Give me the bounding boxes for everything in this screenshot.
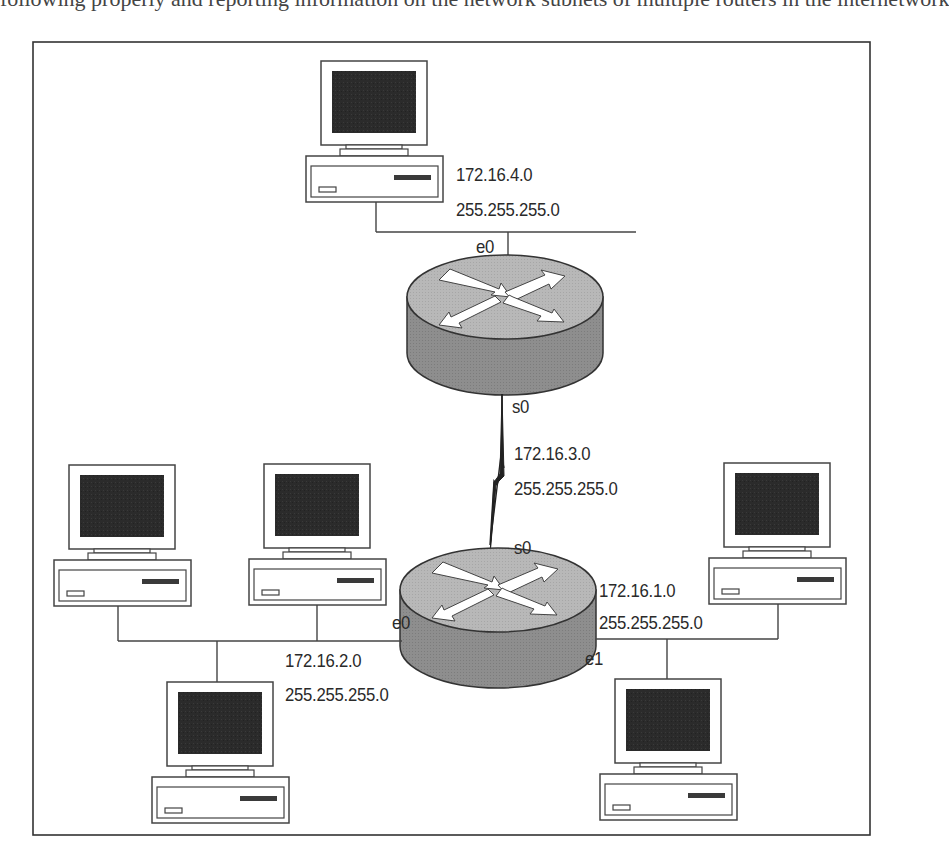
bottom-router-s0-label: s0 — [514, 537, 531, 559]
pc-left-2 — [249, 464, 386, 605]
router-top — [407, 255, 603, 395]
left-network-mask: 255.255.255.0 — [285, 684, 388, 706]
pc-top — [306, 61, 443, 202]
top-router-e0-label: e0 — [476, 236, 494, 258]
diagram-frame — [33, 42, 870, 835]
right-network-address: 172.16.1.0 — [599, 580, 675, 602]
right-network-mask: 255.255.255.0 — [599, 612, 702, 634]
serial-lightning — [490, 394, 504, 555]
pc-right-2 — [600, 679, 737, 820]
serial-network-mask: 255.255.255.0 — [514, 478, 617, 500]
pc-left-1 — [54, 465, 191, 606]
top-router-s0-label: s0 — [512, 396, 529, 418]
pc-left-3 — [152, 682, 289, 823]
pc-right-1 — [709, 463, 846, 604]
router-bottom — [400, 548, 596, 688]
bottom-router-e0-label: e0 — [392, 612, 410, 634]
top-network-mask: 255.255.255.0 — [456, 199, 559, 221]
left-network-address: 172.16.2.0 — [285, 650, 361, 672]
top-network-address: 172.16.4.0 — [456, 164, 532, 186]
bottom-router-e1-label: e1 — [585, 648, 603, 670]
serial-network-address: 172.16.3.0 — [514, 443, 590, 465]
